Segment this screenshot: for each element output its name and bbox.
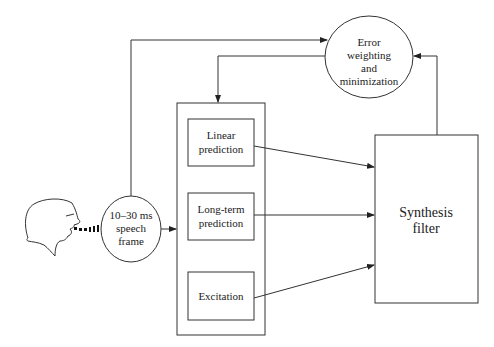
linear-prediction-label-2: prediction <box>199 143 244 155</box>
error-weighting-node: Error weighting and minimization <box>325 16 413 98</box>
speech-frame-label-1: 10–30 ms <box>109 209 152 221</box>
long-term-label-1: Long-term <box>197 203 244 215</box>
synthesis-filter-block: Synthesis filter <box>375 135 478 303</box>
speech-frame-label-2: speech <box>116 222 146 234</box>
speech-frame-label-3: frame <box>118 235 144 247</box>
long-term-label-2: prediction <box>199 217 244 229</box>
linear-prediction-block: Linear prediction <box>188 119 254 166</box>
synthesis-label-2: filter <box>412 221 440 236</box>
excitation-block: Excitation <box>188 272 254 320</box>
excitation-label: Excitation <box>198 290 244 302</box>
error-label-3: and <box>361 62 377 74</box>
speech-frame-node: 10–30 ms speech frame <box>101 196 161 262</box>
diagram-canvas: 10–30 ms speech frame Error weighting an… <box>0 0 494 347</box>
error-label-1: Error <box>357 36 381 48</box>
long-term-prediction-block: Long-term prediction <box>188 193 254 240</box>
speaking-head-icon <box>26 199 99 256</box>
error-label-2: weighting <box>347 49 391 61</box>
synthesis-label-1: Synthesis <box>399 205 453 220</box>
linear-prediction-label-1: Linear <box>207 129 236 141</box>
error-label-4: minimization <box>340 75 399 87</box>
